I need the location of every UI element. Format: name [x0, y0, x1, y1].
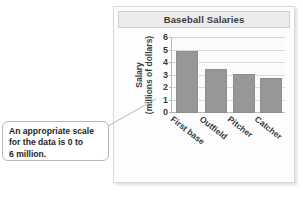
ytick-label-2: 2	[163, 83, 168, 92]
callout-line-2: for the data is 0 to	[9, 137, 102, 148]
ytick-mark-2	[169, 87, 172, 88]
ytick-mark-1	[169, 100, 172, 101]
ytick-label-5: 5	[163, 45, 168, 54]
ytick-label-6: 6	[163, 33, 168, 42]
plot-area: 6 5 4 3 2	[171, 37, 284, 113]
bar-pitcher	[233, 74, 255, 113]
plot-wrap: Salary (millions of dollars) 6 5 4	[114, 7, 296, 184]
callout-line-3: 6 million.	[9, 149, 102, 160]
xlabel-catcher: Catcher	[253, 114, 284, 141]
ytick-label-1: 1	[163, 95, 168, 104]
x-axis-labels: First base Outfield Pitcher Catcher	[171, 114, 297, 164]
y-axis-title: Salary (millions of dollars)	[122, 37, 168, 113]
ytick-mark-3	[169, 75, 172, 76]
ytick-label-3: 3	[163, 70, 168, 79]
ytick-label-0: 0	[163, 108, 168, 117]
y-axis-title-line-2: (millions of dollars)	[145, 36, 155, 114]
xlabel-pitcher: Pitcher	[226, 114, 255, 140]
callout-line-1: An appropriate scale	[9, 126, 102, 137]
bar-first-base	[176, 51, 198, 114]
ytick-mark-4	[169, 62, 172, 63]
ytick-label-4: 4	[163, 58, 168, 67]
chart-card: Baseball Salaries Salary (millions of do…	[113, 6, 295, 183]
ytick-mark-6	[169, 37, 172, 38]
bar-outfield	[205, 69, 227, 113]
scale-callout-box: An appropriate scale for the data is 0 t…	[2, 121, 109, 161]
gridline-6: 6	[172, 37, 285, 38]
screenshot-root: Baseball Salaries Salary (millions of do…	[0, 0, 303, 201]
bar-catcher	[260, 78, 282, 113]
ytick-mark-5	[169, 50, 172, 51]
ytick-mark-0	[169, 112, 172, 113]
